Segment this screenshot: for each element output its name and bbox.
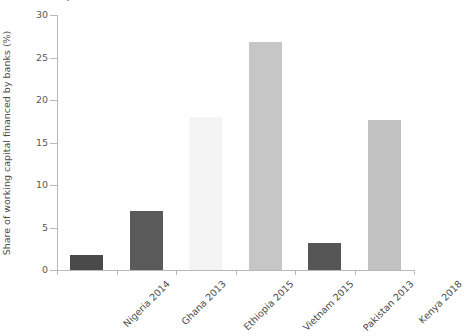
bar	[249, 42, 282, 270]
y-axis-label: Share of working capital financed by ban…	[0, 15, 14, 271]
bar	[70, 255, 103, 270]
x-axis-tick-label: Ghana 2013	[179, 278, 228, 327]
chart-title-fragment: ṛ	[66, 0, 72, 1]
x-axis-tick-label: Pakistan 2013	[360, 278, 415, 333]
y-axis-tick-label: 20	[22, 95, 48, 105]
x-axis-tick	[236, 270, 237, 275]
y-axis-tick	[50, 185, 58, 186]
y-axis-tick-label: 15	[22, 138, 48, 148]
y-axis-tick-label: 10	[22, 180, 48, 190]
x-axis-tick	[355, 270, 356, 275]
x-axis-tick	[117, 270, 118, 275]
x-axis-tick-label: Vietnam 2015	[301, 278, 356, 333]
y-axis-tick	[50, 143, 58, 144]
bar	[368, 120, 401, 270]
x-axis-tick-label: Kenya 2018	[417, 278, 464, 326]
bar	[130, 211, 163, 271]
y-axis-tick-label: 30	[22, 10, 48, 20]
bar	[189, 117, 222, 270]
x-axis-tick	[176, 270, 177, 275]
y-axis-tick	[50, 15, 58, 16]
x-axis-tick-label: Ethiopia 2015	[241, 278, 295, 332]
y-axis-tick	[50, 100, 58, 101]
y-axis-tick-label: 0	[22, 265, 48, 275]
y-axis-tick-label: 25	[22, 53, 48, 63]
x-axis-tick	[57, 270, 58, 275]
y-axis-tick-label: 5	[22, 223, 48, 233]
x-axis-tick-label: Nigeria 2014	[121, 278, 172, 329]
y-axis-tick	[50, 228, 58, 229]
x-axis-tick	[414, 270, 415, 275]
bar	[308, 243, 341, 270]
x-axis-tick	[295, 270, 296, 275]
y-axis-tick	[50, 58, 58, 59]
